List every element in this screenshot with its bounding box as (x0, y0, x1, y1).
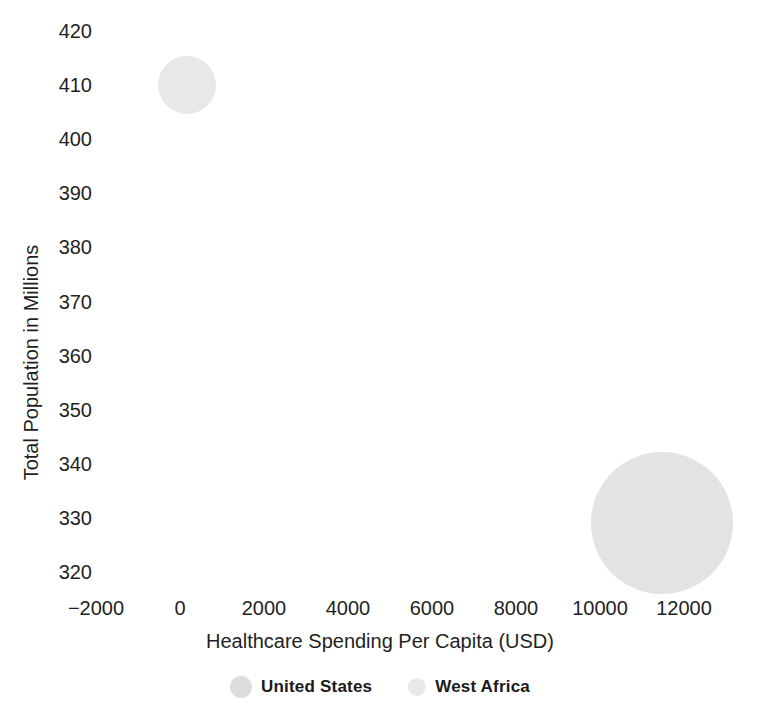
x-tick-label: 8000 (494, 598, 539, 618)
bubble-west-africa[interactable] (158, 56, 216, 114)
x-tick-label: 12000 (656, 598, 712, 618)
legend-bubble-icon (408, 678, 426, 696)
y-tick-label: 370 (59, 292, 92, 312)
x-tick-label: 4000 (326, 598, 371, 618)
y-tick-label: 360 (59, 346, 92, 366)
y-tick-label: 420 (59, 21, 92, 41)
chart-legend: United StatesWest Africa (0, 668, 760, 706)
x-axis-tick-labels: −2000020004000600080001000012000 (0, 598, 760, 624)
y-tick-label: 320 (59, 562, 92, 582)
y-tick-label: 400 (59, 129, 92, 149)
x-tick-label: 10000 (572, 598, 628, 618)
x-tick-label: 6000 (410, 598, 455, 618)
y-tick-label: 340 (59, 454, 92, 474)
y-tick-label: 380 (59, 237, 92, 257)
y-axis-title: Total Population in Millions (14, 0, 48, 725)
legend-item-united-states[interactable]: United States (230, 676, 372, 698)
x-axis-title: Healthcare Spending Per Capita (USD) (0, 629, 760, 653)
bubble-chart: 420410400390380370360350340330320 −20000… (0, 0, 760, 725)
x-tick-label: −2000 (68, 598, 124, 618)
y-tick-label: 350 (59, 400, 92, 420)
legend-item-west-africa[interactable]: West Africa (408, 677, 530, 697)
x-tick-label: 0 (174, 598, 185, 618)
x-tick-label: 2000 (242, 598, 287, 618)
plot-area (96, 12, 748, 590)
legend-label: United States (261, 677, 372, 697)
legend-bubble-icon (230, 676, 252, 698)
y-tick-label: 390 (59, 183, 92, 203)
y-tick-label: 330 (59, 508, 92, 528)
y-tick-label: 410 (59, 75, 92, 95)
legend-label: West Africa (435, 677, 530, 697)
bubble-united-states[interactable] (591, 452, 733, 594)
